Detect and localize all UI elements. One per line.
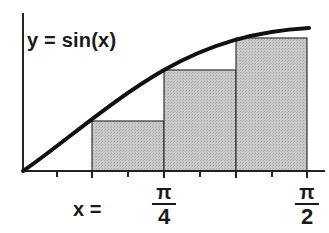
x-axis-label: x =	[73, 198, 101, 221]
rectangle-3	[164, 70, 236, 171]
tick-numerator: π	[152, 182, 176, 202]
rectangle-4	[236, 38, 307, 171]
rectangle-2	[92, 121, 164, 171]
tick-numerator: π	[295, 182, 319, 202]
tick-label-pi-over-4: π 4	[152, 182, 176, 228]
riemann-rectangles	[92, 38, 307, 171]
x-axis-ticks	[57, 171, 307, 178]
tick-denominator: 2	[295, 206, 319, 228]
tick-denominator: 4	[152, 206, 176, 228]
curve-label: y = sin(x)	[27, 29, 116, 52]
tick-label-pi-over-2: π 2	[295, 182, 319, 228]
